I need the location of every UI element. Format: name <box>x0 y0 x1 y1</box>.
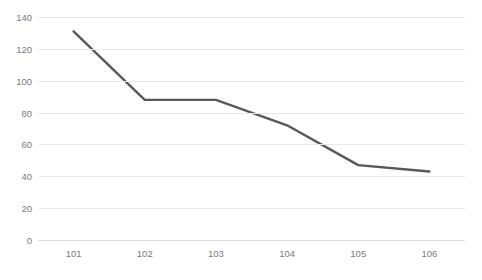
gridline <box>38 49 465 50</box>
gridline <box>38 17 465 18</box>
series-line <box>74 31 430 171</box>
series-line-group <box>38 17 465 240</box>
gridline <box>38 113 465 114</box>
x-axis-tick-label: 104 <box>279 248 295 259</box>
y-axis-tick-label: 100 <box>0 75 32 86</box>
gridline <box>38 81 465 82</box>
y-axis-tick-label: 60 <box>0 139 32 150</box>
y-axis-tick-label: 120 <box>0 43 32 54</box>
y-axis-tick-label: 140 <box>0 12 32 23</box>
line-chart: 020406080100120140 101102103104105106 <box>0 0 482 280</box>
x-axis-tick-label: 106 <box>421 248 437 259</box>
y-axis-tick-label: 0 <box>0 235 32 246</box>
plot-area <box>38 17 465 240</box>
gridline <box>38 144 465 145</box>
gridline <box>38 240 465 241</box>
y-axis-tick-label: 80 <box>0 107 32 118</box>
x-axis-tick-label: 105 <box>350 248 366 259</box>
y-axis-tick-label: 20 <box>0 203 32 214</box>
y-axis-tick-label: 40 <box>0 171 32 182</box>
x-axis-tick-label: 102 <box>137 248 153 259</box>
y-axis: 020406080100120140 <box>0 0 32 280</box>
x-axis: 101102103104105106 <box>38 248 465 268</box>
gridline <box>38 176 465 177</box>
gridline <box>38 208 465 209</box>
x-axis-tick-label: 101 <box>66 248 82 259</box>
x-axis-tick-label: 103 <box>208 248 224 259</box>
